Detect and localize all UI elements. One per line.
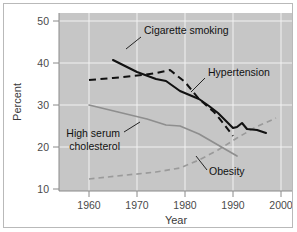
y-axis-title: Percent (11, 83, 23, 121)
y-tick-label-10: 10 (37, 183, 49, 195)
x-tick-label-2000: 2000 (269, 199, 292, 211)
y-tick-label-40: 40 (37, 57, 49, 69)
y-tick-label-20: 20 (37, 141, 49, 153)
series-label-hypertension: Hypertension (208, 66, 270, 78)
x-axis-title: Year (165, 214, 188, 226)
x-tick-label-1990: 1990 (221, 199, 245, 211)
x-axis-ticks (89, 191, 281, 197)
x-tick-label-1980: 1980 (173, 199, 197, 211)
y-tick-label-30: 30 (37, 99, 49, 111)
x-tick-label-1960: 1960 (77, 199, 101, 211)
y-tick-label-50: 50 (37, 15, 49, 27)
plot-area-background (59, 13, 292, 191)
series-label-obesity: Obesity (209, 165, 245, 177)
figure-frame: 50 40 30 20 10 1960 1970 1980 1990 2000 … (3, 3, 293, 228)
series-label-cigarette-smoking: Cigarette smoking (144, 24, 229, 36)
x-tick-label-1970: 1970 (125, 199, 149, 211)
chart-figure: 50 40 30 20 10 1960 1970 1980 1990 2000 … (0, 0, 297, 232)
series-label-high-serum-cholesterol-line1: High serum (66, 127, 120, 139)
line-chart-canvas: 50 40 30 20 10 1960 1970 1980 1990 2000 … (4, 4, 292, 227)
series-label-high-serum-cholesterol-line2: cholesterol (69, 140, 120, 152)
y-axis-ticks (53, 21, 59, 189)
